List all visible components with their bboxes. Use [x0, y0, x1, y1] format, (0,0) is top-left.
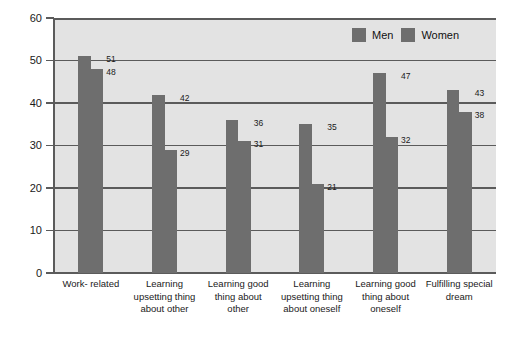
gridline — [54, 272, 496, 273]
y-tick-mark — [46, 145, 54, 146]
y-tick-mark — [46, 102, 54, 103]
x-axis-label: Work- related — [54, 278, 128, 334]
y-tick-label: 0 — [12, 268, 42, 279]
bar-value-label: 38 — [475, 111, 484, 120]
legend-swatch-men-icon — [352, 28, 366, 42]
gridline — [54, 60, 496, 61]
x-axis-label: Learning goodthing aboutoneself — [349, 278, 423, 334]
bar-men — [78, 56, 91, 273]
bar-men — [447, 90, 460, 273]
bar-men — [373, 73, 386, 273]
bar-women — [91, 69, 104, 273]
bar-value-label: 21 — [327, 183, 336, 192]
y-tick-mark — [46, 272, 54, 273]
legend-swatch-women-icon — [401, 28, 415, 42]
y-tick-label: 60 — [12, 13, 42, 24]
bar-value-label: 32 — [401, 136, 410, 145]
y-tick-label: 30 — [12, 140, 42, 151]
bar-women — [312, 184, 325, 273]
bar-women — [165, 150, 178, 273]
x-axis-label: Learning goodthing aboutother — [201, 278, 275, 334]
bar-women — [459, 112, 472, 274]
legend-item-men: Men — [352, 28, 393, 42]
bar-value-label: 42 — [180, 94, 189, 103]
bar-women — [238, 141, 251, 273]
y-tick-mark — [46, 230, 54, 231]
gridline — [54, 102, 496, 103]
bar-value-label: 36 — [254, 119, 263, 128]
bar-value-label: 31 — [254, 140, 263, 149]
x-axis-label: Learningupsetting thingabout oneself — [275, 278, 349, 334]
legend-item-women: Women — [401, 28, 459, 42]
bar-value-label: 43 — [475, 89, 484, 98]
x-axis-label: Fulfilling specialdream — [422, 278, 496, 334]
y-tick-mark — [46, 187, 54, 188]
legend-label-women: Women — [421, 29, 459, 41]
bar-value-label: 47 — [401, 72, 410, 81]
x-axis-label: Learningupsetting thingabout other — [128, 278, 202, 334]
y-tick-mark — [46, 17, 54, 18]
y-tick-mark — [46, 60, 54, 61]
gridline — [54, 187, 496, 188]
gridline — [54, 145, 496, 146]
y-tick-label: 50 — [12, 55, 42, 66]
x-axis-labels: Work- relatedLearningupsetting thingabou… — [54, 278, 496, 334]
bar-men — [226, 120, 239, 273]
legend-label-men: Men — [372, 29, 393, 41]
bar-value-label: 35 — [327, 123, 336, 132]
bar-women — [386, 137, 399, 273]
bar-men — [299, 124, 312, 273]
y-tick-label: 10 — [12, 225, 42, 236]
bar-men — [152, 95, 165, 274]
y-tick-label: 20 — [12, 183, 42, 194]
bar-value-label: 48 — [106, 68, 115, 77]
gridline — [54, 230, 496, 231]
y-tick-label: 40 — [12, 98, 42, 109]
bar-value-label: 51 — [106, 55, 115, 64]
bar-value-label: 29 — [180, 149, 189, 158]
chart-figure: Percentage reporting 0102030405060 51484… — [0, 0, 508, 337]
legend: Men Women — [352, 28, 459, 42]
